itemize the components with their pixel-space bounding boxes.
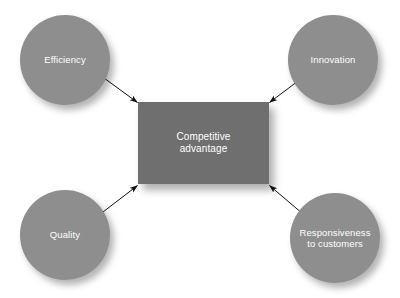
node-efficiency-label: Efficiency [44,54,85,65]
node-responsiveness-label: Responsiveness to customers [299,227,370,249]
arrow-quality-to-center [103,186,138,213]
node-competitive-advantage-label: Competitive advantage [177,131,231,155]
node-efficiency[interactable]: Efficiency [20,15,110,105]
arrow-efficiency-to-center [104,78,138,103]
node-quality[interactable]: Quality [20,190,110,280]
node-innovation-label: Innovation [311,54,356,65]
node-competitive-advantage[interactable]: Competitive advantage [138,102,269,184]
diagram-canvas: Efficiency Innovation Quality Responsive… [0,0,400,298]
node-responsiveness[interactable]: Responsiveness to customers [290,193,380,283]
node-quality-label: Quality [50,229,80,240]
node-innovation[interactable]: Innovation [288,15,378,105]
arrow-responsiveness-to-center [270,186,304,215]
